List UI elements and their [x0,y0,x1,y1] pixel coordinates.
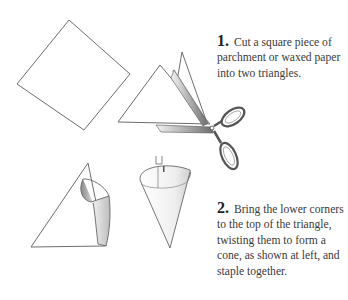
step-text: Cut a square piece of parchment or waxed… [217,36,340,80]
step-number: 1. [217,32,229,49]
step-text: Bring the lower corners to the top of th… [217,203,344,278]
step-2: 2. Bring the lower corners to the top of… [217,200,347,279]
square-paper-icon [17,20,130,130]
folding-cone-icon [31,163,110,247]
step-number: 2. [217,199,229,216]
step-1: 1. Cut a square piece of parchment or wa… [217,33,347,81]
finished-cone-icon [140,156,190,248]
